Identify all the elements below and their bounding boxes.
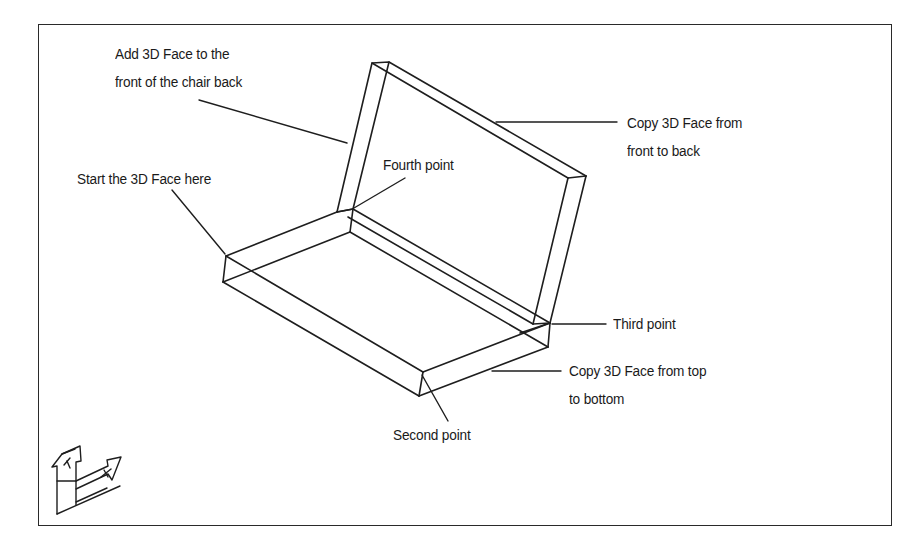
leader-lines [172, 100, 617, 421]
chair-back [337, 62, 586, 324]
callout-add-face-front: Add 3D Face to the front of the chair ba… [115, 40, 242, 96]
callout-fourth-point: Fourth point [383, 151, 454, 179]
callout-text: Copy 3D Face from top [569, 357, 706, 385]
callout-second-point: Second point [393, 421, 471, 449]
callout-copy-front-to-back: Copy 3D Face from front to back [627, 109, 742, 165]
ucs-icon [52, 446, 121, 514]
callout-text: front of the chair back [115, 68, 242, 96]
callout-text: Add 3D Face to the [115, 40, 242, 68]
callout-copy-top-to-bottom: Copy 3D Face from top to bottom [569, 357, 706, 413]
callout-text: Copy 3D Face from [627, 109, 742, 137]
callout-start-face: Start the 3D Face here [77, 165, 211, 193]
chair-seat [223, 209, 550, 396]
callout-text: front to back [627, 137, 742, 165]
callout-text: to bottom [569, 385, 706, 413]
callout-third-point: Third point [613, 310, 676, 338]
figure-canvas: Add 3D Face to the front of the chair ba… [0, 0, 923, 557]
